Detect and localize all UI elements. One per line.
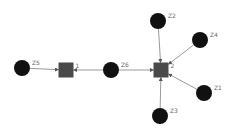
node-z5[interactable]: Z5 xyxy=(14,59,40,76)
node-label: Z6 xyxy=(121,61,129,68)
edge-z1-to-2 xyxy=(169,74,197,89)
square-node-icon[interactable] xyxy=(59,63,74,78)
circle-node-icon[interactable] xyxy=(196,85,212,101)
circle-node-icon[interactable] xyxy=(152,108,168,124)
node-label: Z1 xyxy=(214,84,222,91)
network-diagram: Z51Z62Z2Z4Z1Z3 xyxy=(0,0,234,129)
circle-node-icon[interactable] xyxy=(192,32,208,48)
nodes-layer: Z51Z62Z2Z4Z1Z3 xyxy=(14,12,222,124)
node-label: Z2 xyxy=(168,12,176,19)
node-z1[interactable]: Z1 xyxy=(196,84,222,101)
node-label: Z4 xyxy=(210,31,218,38)
node-label: Z3 xyxy=(170,107,178,114)
square-node-icon[interactable] xyxy=(154,63,169,78)
circle-node-icon[interactable] xyxy=(14,60,30,76)
node-label: 1 xyxy=(76,62,80,69)
edge-z5-to-1 xyxy=(30,68,59,69)
node-label: 2 xyxy=(171,62,175,69)
edge-z2-to-2 xyxy=(158,29,160,63)
edge-z3-to-2 xyxy=(160,78,161,109)
circle-node-icon[interactable] xyxy=(103,62,119,78)
node-z3[interactable]: Z3 xyxy=(152,107,178,124)
circle-node-icon[interactable] xyxy=(150,13,166,29)
node-label: Z5 xyxy=(32,59,40,66)
node-z2[interactable]: Z2 xyxy=(150,12,176,29)
node-z4[interactable]: Z4 xyxy=(192,31,218,48)
